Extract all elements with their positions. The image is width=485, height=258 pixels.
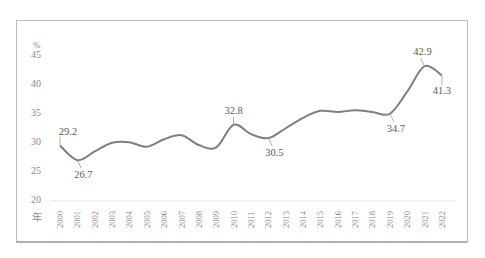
data-label: 26.7 <box>74 169 92 180</box>
annotation-leader <box>421 58 425 66</box>
data-label: 29.2 <box>59 126 77 137</box>
line-chart: 202530354045%年20002001200220032004200520… <box>0 0 485 258</box>
x-tick-label: 2008 <box>194 211 204 228</box>
x-tick-label: 2001 <box>72 211 82 228</box>
x-tick-label: 2016 <box>333 211 343 228</box>
x-tick-label: 2000 <box>55 211 65 228</box>
y-tick-label: 20 <box>31 194 41 205</box>
x-tick-label: 2012 <box>263 211 273 228</box>
x-tick-label: 2013 <box>281 211 291 228</box>
annotation-leader <box>77 160 81 168</box>
x-unit-label: 年 <box>32 211 42 223</box>
x-tick-label: 2017 <box>350 211 360 228</box>
x-tick-label: 2014 <box>298 210 308 228</box>
data-label: 42.9 <box>413 46 431 57</box>
x-tick-label: 2020 <box>402 211 412 228</box>
x-tick-label: 2006 <box>159 211 169 228</box>
x-tick-label: 2007 <box>177 211 187 228</box>
data-label: 32.8 <box>224 105 242 116</box>
x-tick-label: 2005 <box>142 211 152 228</box>
y-tick-label: 30 <box>31 136 41 147</box>
x-tick-label: 2002 <box>90 211 100 228</box>
y-unit-label: % <box>33 40 41 50</box>
x-tick-label: 2009 <box>211 211 221 228</box>
x-tick-label: 2015 <box>315 211 325 228</box>
y-tick-label: 25 <box>31 165 41 176</box>
y-tick-label: 35 <box>31 107 41 118</box>
x-tick-label: 2018 <box>367 211 377 228</box>
x-tick-label: 2004 <box>124 210 134 228</box>
data-line <box>60 66 442 160</box>
x-tick-label: 2003 <box>107 211 117 228</box>
x-tick-label: 2019 <box>385 211 395 228</box>
x-tick-label: 2011 <box>246 211 256 228</box>
data-label: 30.5 <box>265 147 283 158</box>
x-tick-label: 2022 <box>437 211 447 228</box>
data-label: 34.7 <box>387 123 405 134</box>
x-tick-label: 2021 <box>420 211 430 228</box>
data-label: 41.3 <box>433 85 451 96</box>
x-tick-label: 2010 <box>229 211 239 228</box>
y-tick-label: 45 <box>31 49 41 60</box>
annotation-leader <box>390 114 394 122</box>
y-tick-label: 40 <box>31 78 41 89</box>
annotation-leader <box>268 138 272 146</box>
